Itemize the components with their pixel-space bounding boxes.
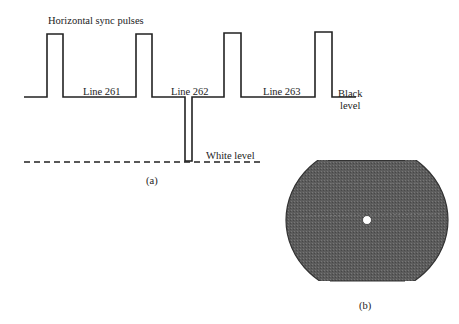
caption-b: (b) (359, 300, 372, 312)
white-level-label: White level (206, 150, 255, 161)
figure: Horizontal sync pulses Line 261 Line 262… (0, 0, 459, 324)
caption-a: (a) (146, 175, 158, 187)
line-261-label: Line 261 (83, 86, 121, 97)
center-dot (363, 216, 372, 225)
line-263-label: Line 263 (263, 86, 301, 97)
title-label: Horizontal sync pulses (48, 15, 144, 26)
line-262-label: Line 262 (171, 86, 209, 97)
black-label: Black (338, 88, 363, 99)
level-label: level (340, 100, 360, 111)
